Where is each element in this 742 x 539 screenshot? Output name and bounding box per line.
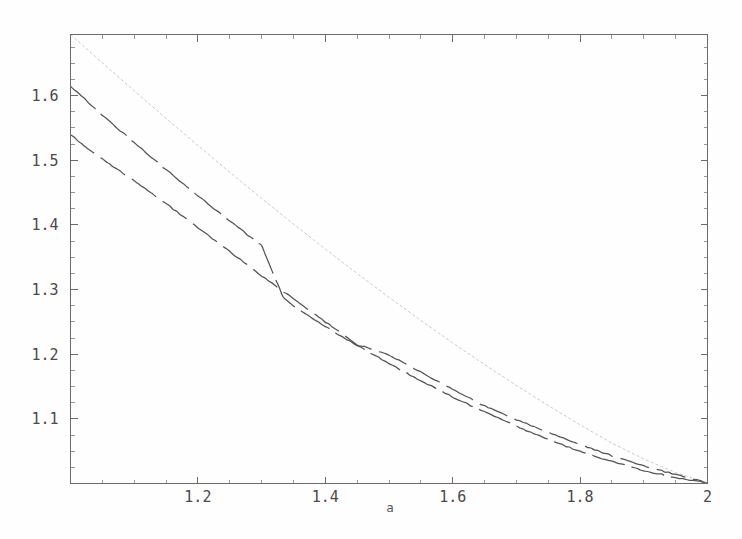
x-tick-label: 1.6 bbox=[439, 488, 466, 506]
series-middle-dark-curve bbox=[71, 86, 708, 482]
major-tick-marks bbox=[71, 35, 708, 484]
x-tick-label: 1.4 bbox=[312, 488, 339, 506]
plot-frame bbox=[71, 35, 708, 484]
series-upper-light-curve bbox=[71, 35, 708, 483]
x-tick-label: 2 bbox=[703, 488, 712, 506]
y-tick-label: 1.6 bbox=[31, 87, 58, 105]
y-tick-label: 1.2 bbox=[31, 346, 58, 364]
y-axis-tick-labels: 1.11.21.31.41.51.6 bbox=[31, 87, 58, 428]
x-tick-label: 1.2 bbox=[184, 488, 211, 506]
y-tick-label: 1.3 bbox=[31, 281, 58, 299]
data-series-group bbox=[71, 35, 708, 484]
x-axis-title: a bbox=[386, 500, 394, 515]
y-tick-label: 1.1 bbox=[31, 410, 58, 428]
plot-frame-border bbox=[71, 35, 708, 484]
x-axis-tick-labels: 1.21.41.61.82 bbox=[184, 488, 712, 506]
line-chart: 1.21.41.61.82 1.11.21.31.41.51.6 a bbox=[0, 0, 742, 539]
x-tick-label: 1.8 bbox=[567, 488, 594, 506]
minor-tick-marks bbox=[71, 35, 708, 484]
series-lower-dark-curve bbox=[71, 135, 708, 483]
figure-container: 1.21.41.61.82 1.11.21.31.41.51.6 a bbox=[0, 0, 742, 539]
y-tick-label: 1.5 bbox=[31, 152, 58, 170]
y-tick-label: 1.4 bbox=[31, 216, 58, 234]
